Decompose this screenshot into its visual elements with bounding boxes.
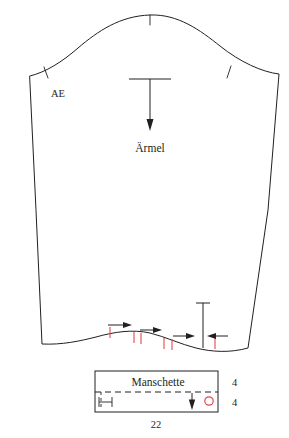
- cuff-label: Manschette: [131, 376, 184, 388]
- sleeve-label: Ärmel: [135, 141, 164, 154]
- cuff-lower-height-label: 4: [232, 397, 238, 408]
- cuff-piece[interactable]: Manschette 4 4 22: [95, 371, 238, 430]
- sleeve-outline: [30, 15, 279, 351]
- pattern-drawing: AE Ärmel: [0, 0, 289, 438]
- cuff-width-label: 22: [151, 419, 162, 430]
- cuff-upper-height-label: 4: [232, 377, 238, 388]
- pattern-page: AE Ärmel: [0, 0, 289, 438]
- ease-label-ae: AE: [51, 88, 65, 99]
- sleeve-piece[interactable]: AE Ärmel: [30, 15, 279, 351]
